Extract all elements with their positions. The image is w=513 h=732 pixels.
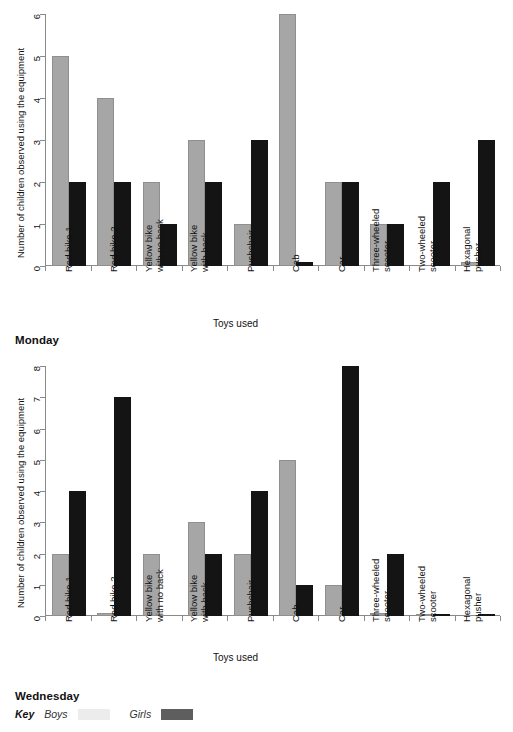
bar-group [319, 14, 365, 266]
x-tick [409, 266, 410, 271]
bar-group [274, 366, 320, 616]
legend-label-boys: Boys [44, 708, 67, 720]
x-tick [364, 266, 365, 271]
bar-group [228, 14, 274, 266]
x-tick [409, 616, 410, 621]
x-category-label: Yellow bikewith back [189, 575, 210, 622]
y-tick-label: 6 [32, 429, 42, 434]
x-tick [273, 266, 274, 271]
y-tick-label: 2 [32, 554, 42, 559]
chart-wednesday: Number of children observed using the eq… [0, 350, 513, 695]
x-category-label: Two-wheeledscooter [417, 566, 438, 622]
x-category-label: Cab [291, 605, 302, 622]
chart-monday: Number of children observed using the eq… [0, 0, 513, 350]
y-tick-label: 0 [32, 616, 42, 621]
y-tick-label: 6 [32, 14, 42, 19]
x-tick [318, 616, 319, 621]
y-tick-label: 4 [32, 491, 42, 496]
x-category-label: Pushchair [246, 230, 257, 272]
x-category-label: Red bike 2 [109, 577, 120, 622]
x-axis-title-wednesday: Toys used [213, 652, 258, 663]
legend: Key Boys Girls [15, 708, 207, 720]
x-category-label: Three-wheeledscooter [371, 209, 392, 272]
day-label-monday: Monday [15, 334, 59, 346]
x-category-label: Car [337, 607, 348, 622]
y-tick-label: 5 [32, 460, 42, 465]
x-tick [136, 266, 137, 271]
bar-girls [342, 366, 359, 616]
x-tick [45, 616, 46, 621]
x-tick [500, 616, 501, 621]
bar-boys [279, 460, 296, 616]
x-category-label: Hexagonalpusher [462, 577, 483, 622]
x-category-label: Red bike 1 [64, 577, 75, 622]
bar-group [228, 366, 274, 616]
legend-label-girls: Girls [130, 708, 152, 720]
x-tick [227, 266, 228, 271]
bar-boys [325, 182, 342, 266]
bar-boys [279, 14, 296, 266]
y-tick-label: 7 [32, 397, 42, 402]
day-label-wednesday: Wednesday [15, 690, 80, 702]
y-tick-label: 0 [32, 266, 42, 271]
x-tick [91, 616, 92, 621]
x-category-label: Yellow bikewith back [189, 225, 210, 272]
bar-girls [342, 182, 359, 266]
bar-group [274, 14, 320, 266]
x-category-label: Two-wheeledscooter [417, 216, 438, 272]
x-category-label: Yellow bikewith no back [144, 219, 165, 272]
x-tick [500, 266, 501, 271]
x-category-label: Car [337, 257, 348, 272]
y-tick-label: 5 [32, 56, 42, 61]
y-tick-label: 1 [32, 224, 42, 229]
x-tick [182, 616, 183, 621]
x-axis-title-monday: Toys used [213, 318, 258, 329]
x-tick [364, 616, 365, 621]
y-tick-label: 4 [32, 98, 42, 103]
y-tick-label: 1 [32, 585, 42, 590]
x-tick [91, 266, 92, 271]
y-axis-title-wednesday: Number of children observed using the eq… [16, 398, 26, 608]
y-tick-label: 8 [32, 366, 42, 371]
y-tick-label: 2 [32, 182, 42, 187]
x-category-label: Yellow bikewith no back [144, 569, 165, 622]
x-category-label: Three-wheeledscooter [371, 559, 392, 622]
x-tick [227, 616, 228, 621]
x-category-label: Cab [291, 255, 302, 272]
x-tick [273, 616, 274, 621]
x-tick [45, 266, 46, 271]
x-category-label: Hexagonalpusher [462, 227, 483, 272]
x-category-label: Red bike 2 [109, 227, 120, 272]
legend-swatch-boys [78, 709, 110, 720]
y-tick-label: 3 [32, 522, 42, 527]
y-tick-label: 3 [32, 140, 42, 145]
x-tick [318, 266, 319, 271]
x-tick [455, 266, 456, 271]
bar-group [319, 366, 365, 616]
x-tick [136, 616, 137, 621]
x-tick [182, 266, 183, 271]
legend-key-label: Key [15, 708, 34, 720]
x-category-label: Pushchair [246, 580, 257, 622]
legend-swatch-girls [161, 709, 193, 720]
y-axis-title-monday: Number of children observed using the eq… [16, 48, 26, 258]
x-category-label: Red bike 1 [64, 227, 75, 272]
x-tick [455, 616, 456, 621]
